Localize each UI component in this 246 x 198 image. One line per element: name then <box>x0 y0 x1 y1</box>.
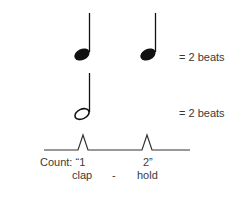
rhythm-diagram <box>0 0 246 198</box>
half-note-icon <box>73 73 91 122</box>
equation-label: = 2 beats <box>179 107 225 119</box>
action-clap: clap <box>72 169 92 181</box>
count-label: Count: “1 <box>40 156 85 168</box>
quarter-note-icon <box>138 13 157 63</box>
action-hold: hold <box>137 169 158 181</box>
count-two-label: 2” <box>143 156 153 168</box>
pulse-line <box>44 135 190 150</box>
equation-label: = 2 beats <box>179 51 225 63</box>
quarter-note-icon <box>72 13 91 63</box>
action-dash: - <box>112 169 116 181</box>
